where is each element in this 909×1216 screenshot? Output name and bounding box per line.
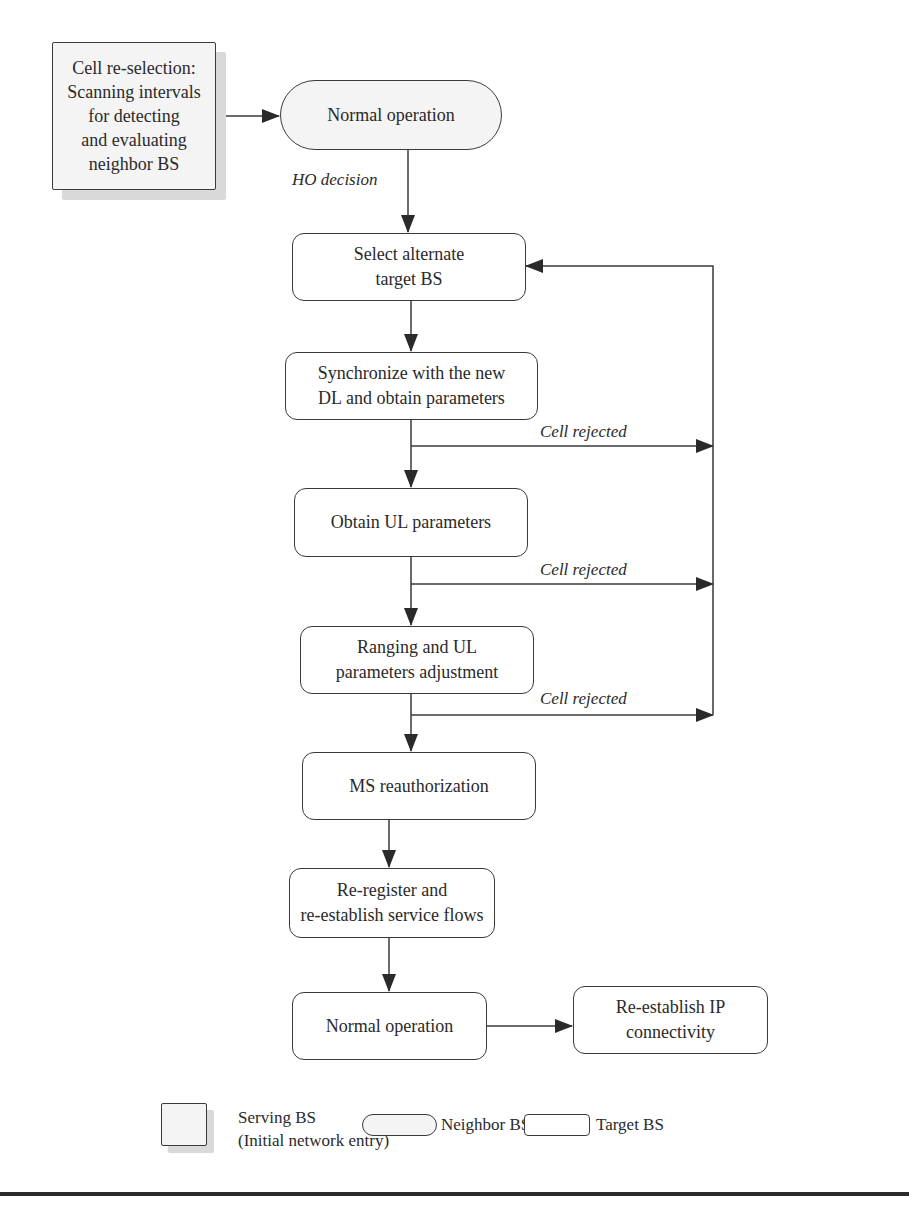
node-sync-line-1: Synchronize with the new (318, 361, 505, 386)
node-reregister-line-1: Re-register and (337, 878, 447, 903)
node-cell-reselection-line-3: for detecting (88, 104, 179, 128)
legend-label-neighbor: Neighbor BS (441, 1113, 530, 1136)
arrow-loop-back-to-select (526, 266, 713, 715)
legend-swatch-serving (161, 1103, 207, 1146)
node-ms-reauthorization: MS reauthorization (302, 752, 536, 820)
edge-label-ho-decision: HO decision (292, 170, 377, 190)
node-obtain-ul-label: Obtain UL parameters (331, 510, 491, 535)
node-normal-operation-top: Normal operation (280, 80, 502, 150)
node-sync-line-2: DL and obtain parameters (318, 386, 505, 411)
node-synchronize-dl: Synchronize with the new DL and obtain p… (285, 352, 538, 420)
node-reestablish-ip-line-2: connectivity (626, 1020, 715, 1045)
node-reauth-label: MS reauthorization (349, 774, 488, 799)
node-ranging-line-2: parameters adjustment (336, 660, 498, 685)
node-ranging-line-1: Ranging and UL (357, 635, 477, 660)
node-normal-operation-bottom: Normal operation (292, 992, 487, 1060)
node-ranging-ul-adjustment: Ranging and UL parameters adjustment (300, 626, 534, 694)
legend-swatch-target (524, 1114, 590, 1136)
node-reregister-service-flows: Re-register and re-establish service flo… (289, 868, 495, 938)
node-select-target-bs: Select alternate target BS (292, 233, 526, 301)
edge-label-cell-rejected-1: Cell rejected (540, 422, 627, 442)
legend-label-target: Target BS (596, 1113, 664, 1136)
bottom-rule-divider (0, 1192, 909, 1196)
node-reestablish-ip: Re-establish IP connectivity (573, 986, 768, 1054)
legend-swatch-neighbor (362, 1114, 437, 1136)
node-obtain-ul-parameters: Obtain UL parameters (294, 488, 528, 557)
node-select-target-line-1: Select alternate (354, 242, 464, 267)
node-cell-reselection-line-4: and evaluating (81, 128, 186, 152)
node-cell-reselection-line-2: Scanning intervals (67, 80, 200, 104)
node-cell-reselection-line-1: Cell re-selection: (72, 56, 195, 80)
edge-label-cell-rejected-3: Cell rejected (540, 689, 627, 709)
node-reestablish-ip-line-1: Re-establish IP (616, 995, 726, 1020)
node-cell-reselection-line-5: neighbor BS (89, 152, 180, 176)
node-cell-reselection: Cell re-selection: Scanning intervals fo… (52, 42, 216, 190)
node-select-target-line-2: target BS (375, 267, 442, 292)
node-normal-operation-top-label: Normal operation (327, 103, 454, 128)
edge-label-cell-rejected-2: Cell rejected (540, 560, 627, 580)
node-reregister-line-2: re-establish service flows (301, 903, 484, 928)
node-normal-operation-bottom-label: Normal operation (326, 1014, 453, 1039)
